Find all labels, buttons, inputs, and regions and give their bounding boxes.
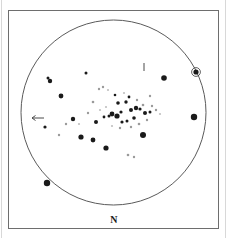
star-marker xyxy=(143,111,147,115)
star-marker xyxy=(114,94,117,97)
star-marker xyxy=(128,96,131,99)
star-marker xyxy=(65,123,67,125)
star-marker xyxy=(129,108,133,112)
star-marker xyxy=(138,123,141,126)
star-marker xyxy=(124,100,127,103)
left-arrow-icon xyxy=(32,116,44,121)
star-marker xyxy=(136,99,138,101)
star-marker xyxy=(99,109,101,111)
star-marker xyxy=(59,94,64,99)
finder-chart-figure: N xyxy=(0,0,228,238)
star-marker xyxy=(159,113,161,115)
star-marker xyxy=(114,113,119,118)
star-marker xyxy=(161,75,167,81)
star-marker xyxy=(134,106,138,110)
star-marker xyxy=(108,115,111,118)
star-marker xyxy=(48,79,52,83)
star-marker xyxy=(103,145,108,150)
star-marker xyxy=(91,138,96,143)
star-marker xyxy=(149,95,151,97)
star-marker xyxy=(193,69,198,74)
star-marker xyxy=(123,92,125,94)
star-marker xyxy=(92,101,95,104)
star-marker xyxy=(44,180,50,186)
star-marker xyxy=(103,116,106,119)
star-field-plot xyxy=(0,0,228,238)
chart-frame-border xyxy=(9,11,219,229)
star-marker xyxy=(119,127,121,129)
star-marker xyxy=(151,105,153,107)
star-marker xyxy=(133,156,135,158)
star-marker xyxy=(146,119,148,121)
star-marker xyxy=(132,116,136,120)
star-marker xyxy=(78,134,83,139)
star-marker xyxy=(105,106,107,108)
star-layer xyxy=(43,68,200,187)
star-marker xyxy=(87,112,89,114)
star-marker xyxy=(107,89,109,91)
star-marker xyxy=(78,123,80,125)
star-marker xyxy=(120,120,123,123)
star-marker xyxy=(119,110,122,113)
star-marker xyxy=(58,134,60,136)
star-marker xyxy=(142,104,145,107)
star-marker xyxy=(116,101,120,105)
star-marker xyxy=(43,125,46,128)
star-marker xyxy=(85,72,88,75)
star-marker xyxy=(140,132,146,138)
star-marker xyxy=(102,86,104,88)
star-marker xyxy=(138,107,141,110)
star-marker xyxy=(155,109,157,111)
star-marker xyxy=(111,125,113,127)
north-direction-label: N xyxy=(0,214,228,225)
star-marker xyxy=(191,114,197,120)
star-marker xyxy=(127,154,130,157)
star-marker xyxy=(98,88,100,90)
star-marker xyxy=(94,120,98,124)
star-marker xyxy=(130,126,132,128)
star-marker xyxy=(71,117,75,121)
star-marker xyxy=(126,120,129,123)
star-marker xyxy=(149,111,152,114)
